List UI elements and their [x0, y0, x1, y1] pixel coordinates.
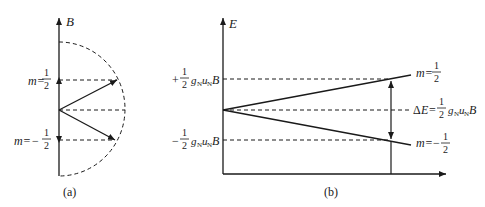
svg-text:2: 2 [182, 79, 187, 90]
svg-text:m=: m= [416, 136, 433, 150]
svg-text:2: 2 [439, 109, 444, 120]
zeeman-diagram: B m= 1 2 m= − 1 2 (a) [0, 0, 485, 207]
svg-text:=: = [429, 103, 436, 117]
precession-semicircle [59, 42, 125, 176]
svg-text:1: 1 [434, 60, 439, 71]
svg-text:−: − [433, 136, 440, 150]
svg-text:1: 1 [44, 127, 49, 138]
svg-text:2: 2 [182, 140, 187, 151]
energy-line-m-plus-half [223, 75, 411, 110]
label-right-m-minus-half: m= − 1 2 [416, 131, 450, 155]
panel-a: B m= 1 2 m= − 1 2 (a) [14, 14, 125, 199]
svg-text:1: 1 [44, 67, 49, 78]
svg-text:B: B [469, 103, 477, 117]
svg-text:m=: m= [416, 66, 433, 80]
label-m-plus-half: m= 1 2 [28, 67, 51, 91]
svg-text:1: 1 [182, 127, 187, 138]
svg-text:1: 1 [443, 131, 448, 142]
svg-text:B: B [212, 134, 220, 148]
spin-vector-up [59, 80, 117, 110]
svg-text:+: + [172, 73, 179, 87]
svg-text:1: 1 [182, 66, 187, 77]
svg-text:1: 1 [439, 96, 444, 107]
svg-text:E: E [420, 103, 429, 117]
svg-text:m=: m= [14, 134, 31, 148]
svg-text:2: 2 [44, 80, 49, 91]
svg-text:B: B [212, 73, 220, 87]
svg-text:Δ: Δ [413, 103, 421, 117]
svg-text:2: 2 [443, 144, 448, 155]
b-axis-label: B [66, 14, 74, 29]
label-minus-half-gnunb: − 1 2 g N u N B [172, 127, 220, 151]
caption-a: (a) [63, 185, 76, 199]
panel-b: E + 1 2 g N u N B − 1 2 g [172, 16, 477, 199]
svg-text:−: − [32, 134, 39, 148]
svg-text:2: 2 [44, 140, 49, 151]
label-right-m-plus-half: m= 1 2 [416, 60, 441, 84]
spin-vector-down [59, 110, 115, 140]
label-delta-e: Δ E = 1 2 g N u N B [413, 96, 477, 120]
label-m-minus-half: m= − 1 2 [14, 127, 51, 151]
e-axis-label: E [228, 16, 237, 31]
svg-text:−: − [172, 134, 179, 148]
svg-text:m=: m= [28, 74, 45, 88]
svg-text:2: 2 [434, 73, 439, 84]
label-plus-half-gnunb: + 1 2 g N u N B [172, 66, 220, 90]
caption-b: (b) [324, 185, 338, 199]
